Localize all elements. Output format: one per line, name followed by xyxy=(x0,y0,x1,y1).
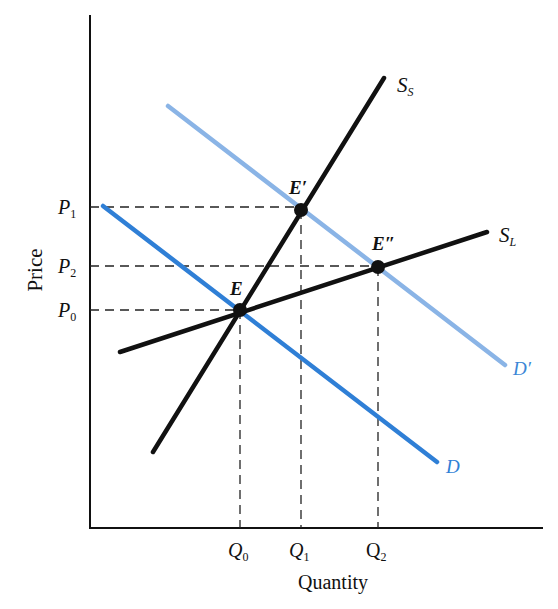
label-e-double-prime: E″ xyxy=(371,233,395,254)
dashed-guides xyxy=(90,207,378,528)
demand-curve-d-prime xyxy=(168,106,505,365)
supply-curve-long-run xyxy=(120,232,487,352)
y-axis-title: Price xyxy=(23,248,47,291)
equilibrium-point-e-prime xyxy=(294,203,308,217)
label-e-prime: E′ xyxy=(288,177,307,198)
label-demand-d: D xyxy=(445,456,460,477)
equilibrium-point-e xyxy=(233,303,247,317)
tick-label-p1: P1 xyxy=(57,196,76,221)
label-supply-short-run: SS xyxy=(397,73,414,99)
label-e: E xyxy=(229,278,243,299)
tick-label-q0: Q0 xyxy=(228,539,248,564)
supply-demand-diagram: E E′ E″ SS SL D D′ P1 P2 P0 Q0 Q1 Q2 Qua… xyxy=(0,0,558,609)
label-demand-d-prime: D′ xyxy=(512,358,532,379)
label-supply-long-run: SL xyxy=(499,223,517,249)
equilibrium-point-e-double-prime xyxy=(371,260,385,274)
tick-label-q2: Q2 xyxy=(366,539,386,564)
tick-label-p0: P0 xyxy=(57,299,76,324)
x-axis-title: Quantity xyxy=(298,571,368,594)
tick-label-p2: P2 xyxy=(57,255,76,280)
tick-label-q1: Q1 xyxy=(289,539,309,564)
